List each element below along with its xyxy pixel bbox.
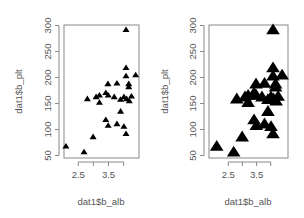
data-point-triangle-icon	[96, 99, 103, 105]
data-point-triangle-icon	[96, 92, 103, 98]
y-axis-title: dat1$b_plt	[159, 69, 170, 114]
data-point-triangle-icon	[84, 96, 91, 102]
data-point-triangle-icon	[235, 131, 249, 142]
y-tick-label: 150	[187, 96, 198, 112]
scatter-plot-canvas: 501001502002503002.53.5dat1$b_albdat1$b_…	[0, 0, 304, 218]
x-axis-title: dat1$b_alb	[224, 196, 271, 207]
y-tick-label: 50	[42, 150, 53, 161]
data-point-triangle-icon	[122, 130, 129, 136]
x-tick-label: 2.5	[72, 169, 85, 180]
data-point-triangle-icon	[122, 26, 129, 32]
x-tick-label: 3.5	[250, 169, 263, 180]
data-point-triangle-icon	[122, 64, 129, 70]
y-tick-label: 50	[187, 150, 198, 161]
data-point-triangle-icon	[117, 108, 124, 114]
data-point-triangle-icon	[113, 121, 120, 127]
x-tick-label: 2.5	[222, 169, 235, 180]
data-point-triangle-icon	[105, 122, 112, 128]
data-point-triangle-icon	[122, 73, 129, 79]
data-point-triangle-icon	[247, 113, 261, 124]
data-point-triangle-icon	[62, 143, 69, 149]
y-tick-label: 250	[187, 44, 198, 60]
y-tick-label: 100	[42, 122, 53, 138]
data-point-triangle-icon	[111, 94, 118, 100]
data-point-triangle-icon	[90, 134, 97, 140]
scatter-panel-right: 501001502002503002.53.5dat1$b_albdat1$b_…	[159, 18, 289, 207]
y-tick-label: 300	[42, 18, 53, 34]
y-axis-title: dat1$b_plt	[13, 69, 24, 114]
y-tick-label: 150	[42, 96, 53, 112]
data-point-triangle-icon	[104, 81, 111, 87]
data-point-triangle-icon	[132, 72, 139, 78]
data-point-triangle-icon	[227, 146, 241, 157]
x-tick-label: 3.5	[102, 169, 115, 180]
y-tick-label: 250	[42, 44, 53, 60]
scatter-panel-left: 501001502002503002.53.5dat1$b_albdat1$b_…	[13, 18, 139, 207]
data-point-triangle-icon	[102, 116, 109, 122]
data-point-triangle-icon	[81, 149, 88, 155]
data-point-triangle-icon	[128, 93, 135, 99]
data-point-triangle-icon	[120, 123, 127, 129]
y-tick-label: 100	[187, 122, 198, 138]
data-point-triangle-icon	[261, 105, 275, 116]
data-point-triangle-icon	[210, 140, 224, 151]
data-point-triangle-icon	[113, 80, 120, 86]
y-tick-label: 200	[187, 70, 198, 86]
x-axis-title: dat1$b_alb	[77, 196, 124, 207]
y-tick-label: 300	[187, 18, 198, 34]
y-tick-label: 200	[42, 70, 53, 86]
plot-frame	[64, 25, 139, 158]
